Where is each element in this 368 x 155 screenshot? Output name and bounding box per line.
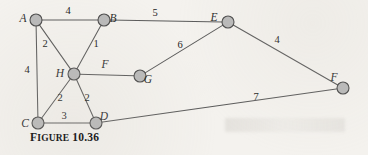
figure-caption: FIGURE 10.36 [30,131,99,143]
edge-weight-c-d: 3 [61,110,66,121]
edge-weight-b-e: 5 [152,7,157,18]
nodes-group [30,14,349,129]
node-label-c: C [21,117,29,129]
graph-edge-e-f [232,24,338,85]
graph-edge-a-c [36,25,38,118]
edge-weight-h-d: 2 [84,92,89,103]
graph-node-a [30,14,42,26]
graph-node-h [68,68,80,80]
figure-container: 42415F223647 ABCDEFGH FIGURE 10.36 [0,0,368,155]
node-label-a: A [18,12,27,24]
edge-weight-h-c: 2 [57,92,62,103]
edge-weight-d-f: 7 [253,91,258,102]
figure-caption-rest: IGURE [37,133,69,143]
graph-edge-g-e [144,25,223,74]
edge-weight-h-g: F [100,58,109,70]
node-label-g: G [144,73,153,85]
figure-caption-number: 10.36 [72,131,99,143]
graph-node-f [337,82,349,94]
graph-node-e [222,16,234,28]
graph-edge-d-f [101,89,338,123]
edge-weight-g-e: 6 [177,39,182,50]
edge-weight-e-f: 4 [274,34,280,45]
edges-group [36,20,339,123]
graph-edge-b-e [109,20,223,22]
node-label-e: E [209,11,217,23]
edge-weight-b-h: 1 [93,38,98,49]
edge-weight-a-b: 4 [65,5,71,16]
node-label-f: F [329,71,338,83]
graph-edge-h-g [79,74,135,76]
node-label-b: B [109,12,116,24]
node-label-h: H [55,67,65,79]
graph-node-c [32,117,44,129]
node-label-d: D [99,110,109,122]
edge-weight-a-h: 2 [42,38,47,49]
graph-node-b [98,14,110,26]
edge-weight-a-c: 4 [24,64,30,75]
edge-labels-group: 42415F223647 [24,5,280,121]
